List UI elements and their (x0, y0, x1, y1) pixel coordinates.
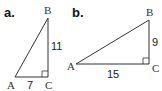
right-angle-marker-b (143, 58, 149, 64)
side-length-bc: 9 (152, 36, 158, 48)
part-label-a: a. (4, 5, 15, 20)
vertex-label-a: A (67, 60, 75, 72)
diagram-canvas: a. B A C 11 7 b. B A C 9 15 (0, 0, 162, 91)
vertex-label-b: B (146, 6, 153, 18)
vertex-label-a: A (7, 79, 15, 91)
side-length-bc: 11 (51, 40, 62, 52)
triangle-b: b. B A C 9 15 (67, 5, 159, 80)
triangle-a-shape (15, 18, 48, 77)
vertex-label-c: C (152, 62, 159, 74)
side-length-ac: 15 (107, 68, 119, 80)
triangle-a: a. B A C 11 7 (4, 4, 62, 91)
side-length-ac: 7 (27, 79, 33, 91)
triangle-b-shape (76, 20, 149, 64)
right-angle-marker-a (42, 71, 48, 77)
part-label-b: b. (72, 5, 84, 20)
vertex-label-b: B (44, 4, 51, 16)
vertex-label-c: C (45, 79, 52, 91)
